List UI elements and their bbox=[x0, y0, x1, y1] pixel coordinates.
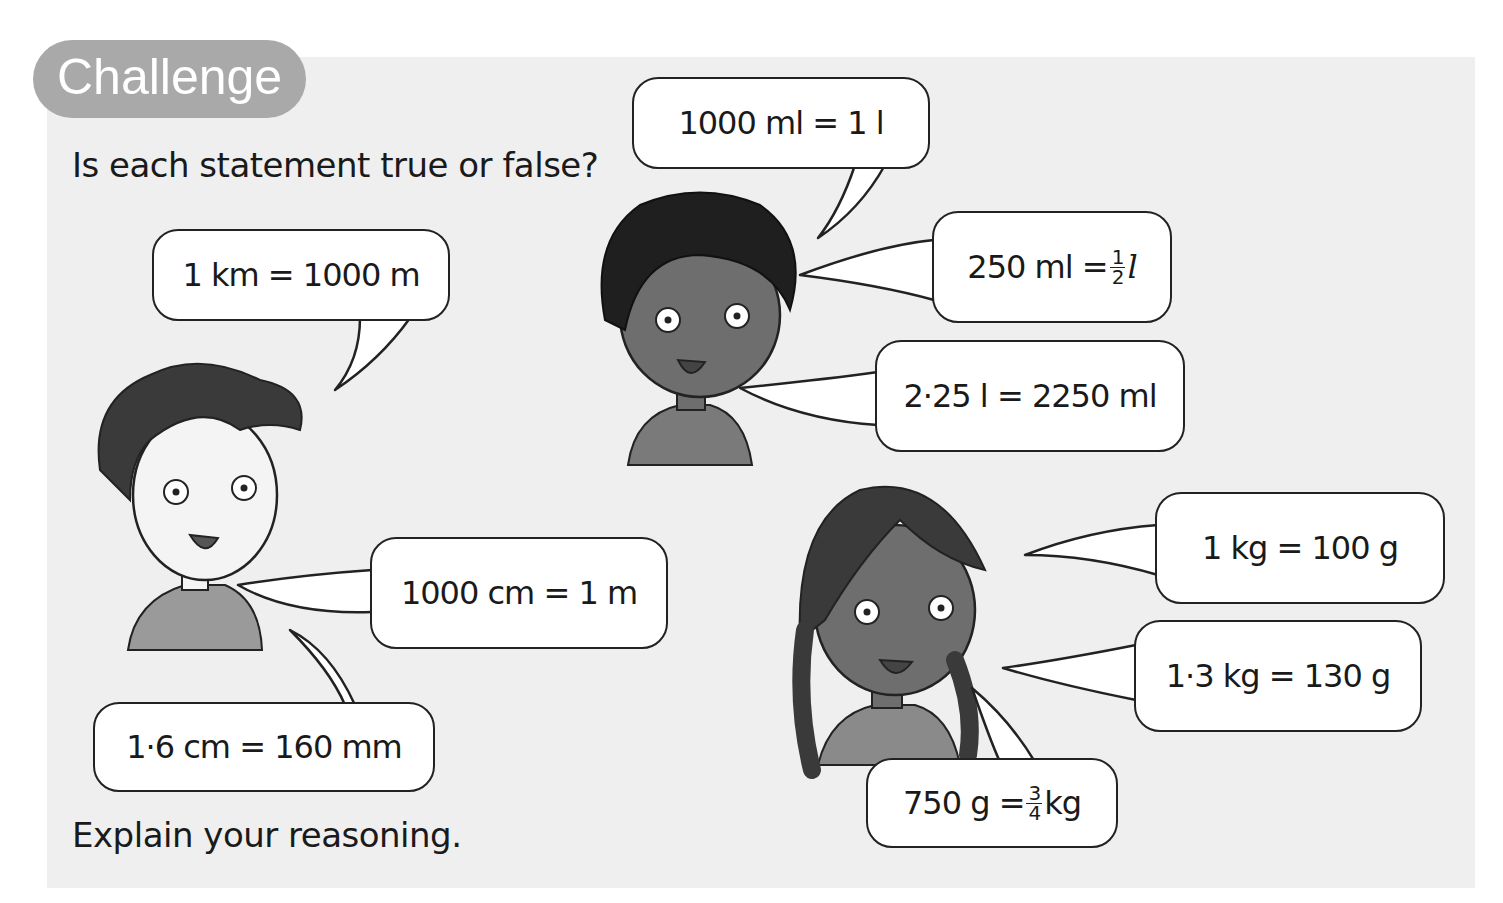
fraction-denominator: 2 bbox=[1112, 268, 1124, 287]
statement-text-after: kg bbox=[1044, 784, 1081, 822]
statement-bubble-cm-m: 1000 cm = 1 m bbox=[370, 537, 668, 649]
statement-text-before: 750 g = bbox=[903, 784, 1025, 822]
statement-bubble-cm-mm: 1·6 cm = 160 mm bbox=[93, 702, 435, 792]
statement-bubble-ml-half-l: 250 ml = 1 2 l bbox=[932, 211, 1172, 323]
statement-bubble-ml-l: 1000 ml = 1 l bbox=[632, 77, 930, 169]
fraction-denominator: 4 bbox=[1028, 804, 1040, 823]
statement-text: 1000 cm = 1 m bbox=[401, 574, 637, 612]
statement-bubble-l-ml: 2·25 l = 2250 ml bbox=[875, 340, 1185, 452]
statement-text: 1000 ml = 1 l bbox=[678, 104, 883, 142]
statement-bubble-kg-g: 1 kg = 100 g bbox=[1155, 492, 1445, 604]
statement-text-after: l bbox=[1127, 248, 1136, 286]
statement-text: 2·25 l = 2250 ml bbox=[903, 377, 1156, 415]
statement-text: 1 kg = 100 g bbox=[1202, 529, 1398, 567]
statement-bubble-g-three-quarter-kg: 750 g = 3 4 kg bbox=[866, 758, 1118, 848]
statement-text: 1·3 kg = 130 g bbox=[1166, 657, 1391, 695]
statement-text-before: 250 ml = bbox=[967, 248, 1107, 286]
statement-bubble-kg-g-decimal: 1·3 kg = 130 g bbox=[1134, 620, 1422, 732]
statement-text: 1·6 cm = 160 mm bbox=[126, 728, 402, 766]
statement-text: 1 km = 1000 m bbox=[182, 256, 419, 294]
statement-bubble-km-m: 1 km = 1000 m bbox=[152, 229, 450, 321]
fraction-three-quarters: 3 4 bbox=[1026, 784, 1042, 823]
fraction-one-half: 1 2 bbox=[1110, 248, 1126, 287]
